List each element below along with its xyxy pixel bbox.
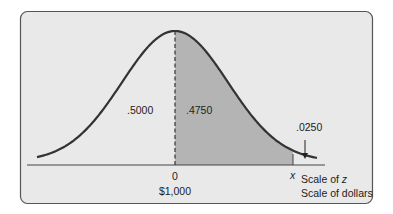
normal-curve-figure: .5000 .4750 .0250 0 $1,000 x Scale of z … bbox=[0, 0, 393, 214]
x-marker-label: x bbox=[289, 169, 296, 181]
center-z-label: 0 bbox=[172, 170, 178, 182]
shaded-area-label: .4750 bbox=[186, 104, 212, 116]
z-variable: z bbox=[341, 173, 348, 185]
left-half-area-label: .5000 bbox=[127, 104, 153, 116]
center-dollars-label: $1,000 bbox=[159, 185, 191, 197]
scale-of-z-prefix: Scale of bbox=[301, 173, 342, 185]
scale-of-z-label: Scale of z bbox=[301, 173, 348, 185]
tail-area-label: .0250 bbox=[296, 121, 322, 133]
scale-of-dollars-label: Scale of dollars bbox=[301, 187, 373, 199]
